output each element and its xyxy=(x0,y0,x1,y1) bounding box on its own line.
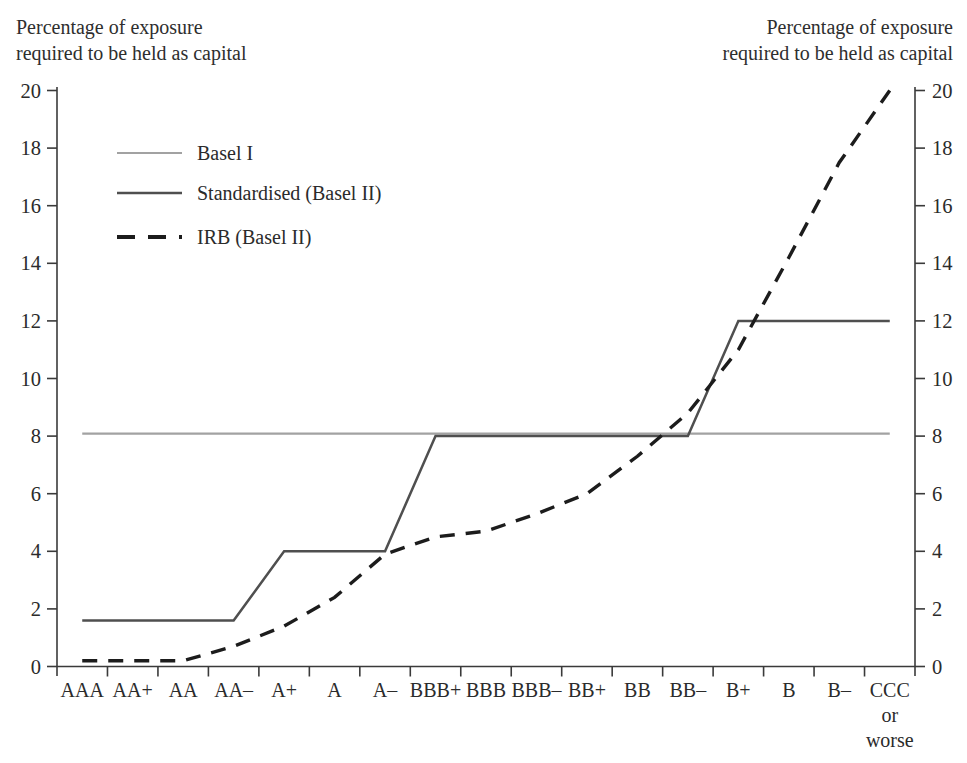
y-tick-label-right: 4 xyxy=(932,540,942,562)
y-tick-label-right: 0 xyxy=(932,656,942,678)
series-line-irb-basel-ii xyxy=(82,91,890,661)
y-tick-label-right: 6 xyxy=(932,483,942,505)
y-tick-label-left: 8 xyxy=(31,425,41,447)
x-category-label: BB xyxy=(624,679,651,701)
y-tick-label-right: 18 xyxy=(932,137,953,159)
x-category-label: B– xyxy=(828,679,852,701)
y-tick-label-right: 20 xyxy=(932,80,953,102)
x-category-label: AA xyxy=(169,679,198,701)
y-tick-label-left: 14 xyxy=(21,252,42,274)
legend: Basel IStandardised (Basel II)IRB (Basel… xyxy=(117,142,381,249)
y-tick-label-left: 2 xyxy=(31,598,41,620)
x-category-label: B+ xyxy=(726,679,751,701)
x-category-label: BBB+ xyxy=(410,679,461,701)
x-category-label: A+ xyxy=(271,679,297,701)
y-tick-label-right: 16 xyxy=(932,195,953,217)
x-category-label: AAA xyxy=(61,679,105,701)
capital-requirements-chart: 0022446688101012121414161618182020AAAAA+… xyxy=(0,0,967,763)
y-tick-label-right: 14 xyxy=(932,252,953,274)
y-tick-label-right: 8 xyxy=(932,425,942,447)
y-tick-label-left: 0 xyxy=(31,656,41,678)
chart-figure: Percentage of exposure required to be he… xyxy=(0,0,967,763)
legend-label: Basel I xyxy=(197,142,253,164)
x-category-label: CCCorworse xyxy=(866,679,914,751)
legend-label: IRB (Basel II) xyxy=(197,226,311,249)
x-category-label: A– xyxy=(373,679,398,701)
x-category-label: BB+ xyxy=(568,679,606,701)
y-tick-label-right: 12 xyxy=(932,310,953,332)
y-tick-label-left: 16 xyxy=(21,195,42,217)
x-category-label: AA+ xyxy=(113,679,153,701)
x-category-label: BB– xyxy=(670,679,708,701)
x-category-label: BBB– xyxy=(511,679,562,701)
x-category-label: AA– xyxy=(214,679,254,701)
y-tick-label-left: 10 xyxy=(21,368,42,390)
y-tick-label-left: 12 xyxy=(21,310,42,332)
legend-label: Standardised (Basel II) xyxy=(197,182,381,205)
x-category-label: BBB xyxy=(466,679,506,701)
y-tick-label-right: 10 xyxy=(932,368,953,390)
y-tick-label-left: 6 xyxy=(31,483,41,505)
x-category-label: B xyxy=(782,679,795,701)
y-tick-label-left: 4 xyxy=(31,540,41,562)
y-tick-label-left: 18 xyxy=(21,137,42,159)
x-category-label: A xyxy=(327,679,342,701)
y-tick-label-left: 20 xyxy=(21,80,42,102)
series-line-standardised-basel-ii xyxy=(82,321,890,621)
y-tick-label-right: 2 xyxy=(932,598,942,620)
axes: 0022446688101012121414161618182020AAAAA+… xyxy=(21,80,953,752)
